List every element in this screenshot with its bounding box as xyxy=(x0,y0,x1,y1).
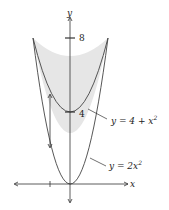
tick-label-8: 8 xyxy=(79,33,85,43)
tick-label-4: 4 xyxy=(79,109,85,119)
pointer-upper xyxy=(88,109,107,119)
label-upper-exp: 2 xyxy=(152,114,157,121)
label-lower-exp: 2 xyxy=(137,159,142,166)
label-lower-curve: y = 2x2 xyxy=(108,159,142,171)
region-diagram: y x 8 4 y = 4 + x2 y = 2x2 xyxy=(0,0,169,210)
label-upper-curve: y = 4 + x2 xyxy=(110,114,157,126)
shaded-region xyxy=(33,38,108,133)
y-axis-label: y xyxy=(66,8,73,18)
x-axis-label: x xyxy=(130,179,135,189)
pointer-lower xyxy=(90,158,106,166)
label-upper-text: y = 4 + x xyxy=(110,116,153,126)
label-lower-text: y = 2x xyxy=(108,161,138,171)
